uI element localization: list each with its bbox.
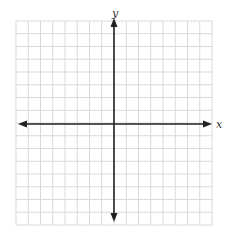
x-axis-label: x [216, 118, 223, 131]
coordinate-plane: x y [0, 0, 229, 238]
axes [18, 18, 212, 222]
y-axis-bottom-arrow-icon [111, 213, 118, 222]
y-axis-label: y [111, 7, 119, 20]
x-axis-right-arrow-icon [203, 121, 212, 128]
x-axis-left-arrow-icon [18, 121, 27, 128]
